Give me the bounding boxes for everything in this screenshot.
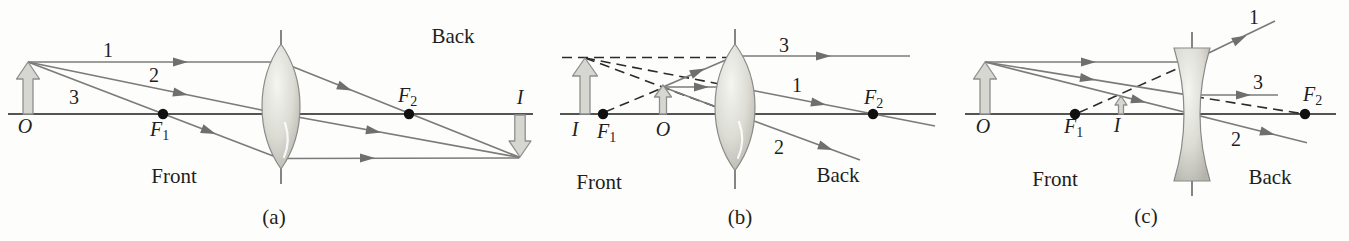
ray-2-arrowhead-c [1130,94,1147,107]
ray-2-label-a: 2 [149,64,159,86]
virtual-extension-ray1-b [585,58,735,87]
focal-label-f2-base-a: F [397,84,411,106]
focal-label-f2-sub-c: 2 [1315,93,1322,108]
panel-b: I F1 O 3 1 2 F2 Front Back (b) [560,29,936,229]
focal-label-f2-base-b: F [863,86,877,108]
image-label-b: I [571,118,580,140]
panel-c: O F1 I 1 3 2 F2 Front Back (c) [965,6,1336,228]
focal-point-f1-b [598,109,608,119]
ray-diagram-canvas: 1 2 3 O I F1 F2 Front Back (a) [0,0,1349,241]
focal-label-f1-b: F1 [596,120,616,145]
focal-label-f2-b: F2 [863,86,883,111]
ray-3-label-a: 3 [69,86,79,108]
ray-1-arrowhead-c [1081,57,1096,66]
focal-label-f1-base-c: F [1063,115,1077,137]
ray-2-out-arrowhead-b [817,141,834,155]
focal-label-f1-sub-a: 1 [162,128,169,143]
ray-1-out-arrowhead-a [336,81,353,95]
ray-1-refracted-b [735,87,935,126]
ray-3-arrowhead-b [689,64,706,78]
ray-1-refracted-a [281,62,520,158]
ray-2-label-c: 2 [1231,128,1241,150]
image-arrow-a [509,115,531,157]
image-label-a: I [516,86,525,108]
ray-2-arrowhead-a [172,87,189,99]
lens-ray-diagram-figure: 1 2 3 O I F1 F2 Front Back (a) [0,0,1349,241]
ray-2-label-b: 2 [774,136,784,158]
virtual-extension-ray3-to-f2-c [1194,97,1301,114]
caption-c: (c) [1134,204,1157,228]
back-label-a: Back [431,24,475,48]
back-label-c: Back [1248,165,1292,189]
object-arrow-c [974,62,997,114]
ray-1-label-b: 1 [792,74,802,96]
object-label-c: O [976,115,990,137]
ray-1-arrowhead-b [694,82,709,91]
focal-point-f2-a [404,109,414,119]
ray-1-out-arrowhead-b [810,97,826,109]
ray-1-out-arrowhead-c [1231,31,1249,46]
object-label-a: O [18,115,32,137]
object-arrow-a [17,62,40,114]
image-arrow-c [1115,96,1127,114]
front-label-c: Front [1032,167,1078,191]
focal-label-f1-base-b: F [596,120,610,142]
focal-point-f2-c [1300,109,1310,119]
virtual-segment-f1-to-object-b [605,89,661,113]
focal-label-f2-sub-a: 2 [410,94,417,109]
panel-a: 1 2 3 O I F1 F2 Front Back (a) [8,24,533,229]
ray-3-out-arrowhead-b [816,51,831,60]
ray-2-refracted-a [281,114,520,158]
focal-label-f2-c: F2 [1302,83,1322,108]
caption-b: (b) [728,205,753,229]
ray-3-out-arrowhead-a [360,153,375,162]
front-label-a: Front [151,164,197,188]
ray-1-label-c: 1 [1249,6,1259,28]
focal-label-f1-c: F1 [1063,115,1083,140]
ray-3-out-arrowhead-c [1236,90,1251,99]
ray-1-label-a: 1 [103,39,113,61]
back-label-b: Back [816,163,860,187]
image-label-c: I [1113,114,1122,136]
caption-a: (a) [262,205,285,229]
ray-3-label-c: 3 [1253,71,1263,93]
object-label-b: O [656,118,670,140]
ray-1-arrowhead-a [173,57,188,66]
focal-label-f2-base-c: F [1302,83,1316,105]
ray-3-arrowhead-a [200,124,217,138]
focal-label-f2-sub-b: 2 [876,96,883,111]
focal-label-f1-sub-c: 1 [1076,125,1083,140]
image-arrow-b [573,58,598,114]
front-label-b: Front [576,170,622,194]
ray-3-arrowhead-c [1079,73,1095,84]
converging-lens-b [715,44,755,171]
focal-label-f1-base-a: F [149,118,163,140]
ray-2-out-arrowhead-c [1259,127,1276,140]
focal-label-f1-a: F1 [149,118,169,143]
focal-label-f1-sub-b: 1 [609,130,616,145]
focal-label-f2-a: F2 [397,84,417,109]
ray-3-refracted-a [281,158,519,159]
ray-3-label-b: 3 [779,34,789,56]
virtual-extension-ray1-c [1079,63,1190,113]
